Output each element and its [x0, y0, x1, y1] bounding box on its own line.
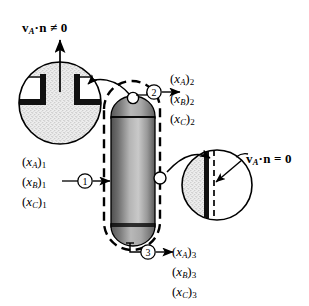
stream-1-species-a: A: [32, 160, 37, 170]
vessel-side-node: [154, 172, 166, 184]
stream-1-marker-label: 1: [79, 177, 91, 187]
stream-3-composition-c: (xC)3: [172, 285, 197, 298]
stream-2-marker-label: 2: [148, 88, 160, 98]
stream-3-species-b: B: [182, 270, 187, 280]
stream-3-index-a: 3: [192, 250, 197, 260]
stream-1-composition-c: (xC)1: [22, 195, 47, 208]
stream-2-composition-b: (xB)2: [170, 92, 194, 105]
stream-3-species-c: C: [182, 290, 188, 300]
stream-2-composition-a: (xA)2: [170, 72, 194, 85]
stream-3-index-c: 3: [192, 290, 197, 300]
flux-nonzero-dot: ·: [35, 20, 40, 35]
flux-zero-relation: =: [274, 151, 282, 166]
stream-2-species-b: B: [180, 97, 185, 107]
stream-2-index-a: 2: [190, 77, 195, 87]
flux-nonzero-value: 0: [61, 20, 68, 35]
stream-3-marker-label: 3: [142, 248, 154, 258]
stream-2-species-c: C: [180, 117, 186, 127]
stream-2-species-a: A: [180, 77, 185, 87]
flux-nonzero-subscript: A: [29, 26, 35, 36]
detail-solid-wall-group: [182, 150, 252, 220]
figure-canvas: vA·n ≠ 0 vA·n = 0 (xA)1 (xB)1 (xC)1 (xA)…: [0, 0, 309, 306]
flux-zero-dot: ·: [259, 151, 264, 166]
vessel-group: [111, 96, 155, 246]
flux-nonzero-label: vA·n ≠ 0: [22, 21, 68, 34]
vessel-shell: [111, 117, 155, 227]
stream-2-composition-c: (xC)2: [170, 112, 195, 125]
detail-wall-solid: [204, 150, 209, 220]
stream-3-composition-b: (xB)3: [172, 265, 196, 278]
stream-3-composition-a: (xA)3: [172, 245, 196, 258]
stream-2-index-b: 2: [190, 97, 195, 107]
stream-1-composition-a: (xA)1: [22, 155, 46, 168]
stream-1-index-b: 1: [42, 180, 47, 190]
stream-1-index-c: 1: [42, 200, 47, 210]
stream-1-species-c: C: [32, 200, 38, 210]
flux-zero-subscript: A: [253, 157, 259, 167]
flux-nonzero-relation: ≠: [50, 20, 57, 35]
stream-1-composition-b: (xB)1: [22, 175, 46, 188]
flux-zero-label: vA·n = 0: [246, 152, 292, 165]
stream-2-index-c: 2: [190, 117, 195, 127]
stream-1-species-b: B: [32, 180, 37, 190]
stream-3-species-a: A: [182, 250, 187, 260]
stream-3-index-b: 3: [192, 270, 197, 280]
vessel-top-node: [127, 92, 138, 103]
stream-1-index-a: 1: [42, 160, 47, 170]
flux-zero-value: 0: [285, 151, 292, 166]
